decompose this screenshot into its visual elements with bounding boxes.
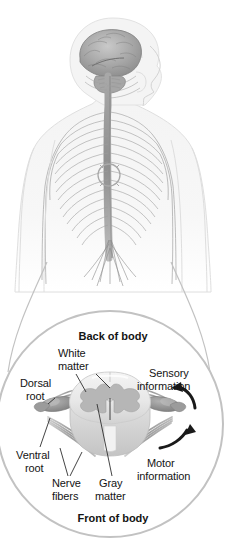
label-dorsal-root-line1: Dorsal xyxy=(20,377,51,390)
spinal-cord xyxy=(107,76,109,258)
label-ventral-root-line1: Ventral xyxy=(16,449,50,462)
label-back-of-body: Back of body xyxy=(78,330,147,343)
label-nerve-fibers-line1: Nerve xyxy=(52,477,81,490)
nervous-system-figure: Back of body White matter Dorsal root Se… xyxy=(0,0,226,550)
body-panel-group xyxy=(15,18,211,292)
label-white-matter-line1: White xyxy=(58,347,86,360)
label-sensory-line1: Sensory xyxy=(149,367,189,380)
label-dorsal-root-line2: root xyxy=(26,390,45,403)
label-gray-matter-line1: Gray xyxy=(99,477,122,490)
label-white-matter-line2: matter xyxy=(58,360,89,373)
label-front-of-body: Front of body xyxy=(78,512,149,525)
label-ventral-root-line2: root xyxy=(25,462,44,475)
label-gray-matter-line2: matter xyxy=(95,490,126,503)
label-nerve-fibers-line2: fibers xyxy=(52,490,78,503)
label-motor-line2: information xyxy=(137,470,190,483)
label-sensory-line2: information xyxy=(137,380,190,393)
label-motor-line1: Motor xyxy=(147,457,175,470)
